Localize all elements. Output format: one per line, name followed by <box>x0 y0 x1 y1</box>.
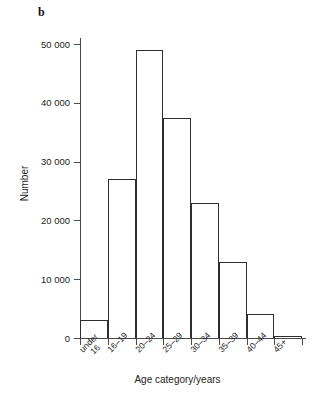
bar-35-39 <box>219 262 247 338</box>
y-tick-label-40000: 40 000 <box>8 98 70 108</box>
y-tick-label-10000: 10 000 <box>8 275 70 285</box>
x-tick-8 <box>302 338 303 345</box>
figure-panel-b: b 50 000 40 000 30 000 20 000 10 000 0 N… <box>0 0 327 407</box>
y-tick-label-20000: 20 000 <box>8 216 70 226</box>
bar-20-24 <box>136 50 164 338</box>
y-axis-title: Number <box>19 154 30 214</box>
y-tick-label-50000: 50 000 <box>8 40 70 50</box>
panel-label: b <box>38 6 45 18</box>
y-tick-label-0: 0 <box>8 334 70 344</box>
y-axis-line <box>80 38 81 339</box>
x-axis-title: Age category/years <box>0 374 327 385</box>
bar-30-34 <box>191 203 219 338</box>
bar-45-plus <box>274 336 302 338</box>
bar-16-19 <box>108 179 136 338</box>
bar-25-29 <box>163 118 191 339</box>
y-tick-label-30000: 30 000 <box>8 157 70 167</box>
